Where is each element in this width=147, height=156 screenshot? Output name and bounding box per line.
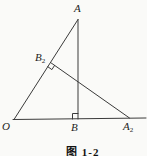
segment-B2A2 xyxy=(51,63,130,119)
right-angle-mark-B xyxy=(73,114,79,120)
label-point-B: B xyxy=(71,122,78,133)
label-point-A2-text: A xyxy=(123,120,130,132)
label-point-B2-subscript: 2 xyxy=(42,57,46,65)
label-point-A2-subscript: 2 xyxy=(130,126,134,134)
label-point-O-text: O xyxy=(2,120,10,132)
segment-OA xyxy=(14,20,78,120)
label-point-A: A xyxy=(74,3,81,14)
label-point-A2: A2 xyxy=(123,121,133,134)
label-point-A-text: A xyxy=(74,2,81,14)
label-point-O: O xyxy=(2,121,10,132)
label-point-B-text: B xyxy=(71,121,78,133)
right-angle-mark-B2 xyxy=(48,65,55,69)
figure-caption: 图 1-2 xyxy=(66,146,99,156)
geometry-figure: A B2 O B A2 图 1-2 xyxy=(0,0,147,156)
label-point-B2: B2 xyxy=(35,52,45,65)
label-point-B2-text: B xyxy=(35,51,42,63)
